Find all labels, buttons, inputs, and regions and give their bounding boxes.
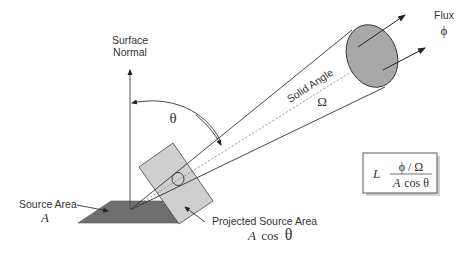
radiance-formula-box: L ϕ / Ω A cos θ [363,153,440,196]
theta-label: θ [169,110,176,126]
formula-denominator-A: A [392,176,401,190]
projected-area-label: Projected Source Area [212,215,317,227]
formula-denominator: A cos θ [392,176,429,190]
formula-lhs: L [372,166,380,181]
formula-numerator: ϕ / Ω [399,160,424,174]
flux-ellipse [338,17,407,94]
theta-arc-end-arrow [196,115,221,145]
omega-label: Ω [317,94,327,109]
radiance-diagram: Surface Normal θ Solid Angle Ω Flux ϕ So… [0,0,467,256]
flux-label: Flux [434,9,455,21]
cone-centerline [130,57,375,210]
projected-area-A: A [247,228,256,243]
phi-label: ϕ [441,23,448,38]
projected-area-formula: A cos θ [247,226,292,243]
surface-normal-label-line1: Surface [112,34,148,46]
source-area-symbol: A [40,210,49,225]
source-area-label: Source Area [19,198,77,210]
cone-upper-edge [130,30,352,210]
surface-normal-label-line2: Normal [113,46,147,58]
projected-area-theta: θ [285,226,293,243]
source-area-shape [78,201,178,223]
solid-angle-label: Solid Angle [285,66,336,105]
projected-area-cos: cos [261,228,278,243]
formula-denominator-cos-theta: cos θ [404,176,429,190]
